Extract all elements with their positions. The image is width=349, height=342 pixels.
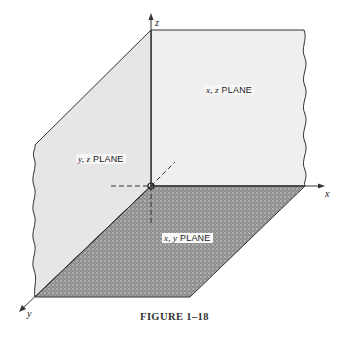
xy-plane-label: x, y PLANE (162, 233, 213, 243)
xz-plane-label: x, z PLANE (204, 85, 254, 95)
coordinate-planes-diagram (0, 0, 349, 342)
x-arrow-icon (318, 184, 325, 189)
x-axis-label: x (325, 188, 329, 199)
yz-plane-label: y, z PLANE (76, 154, 126, 164)
figure-caption: FIGURE 1–18 (0, 311, 349, 322)
z-arrow-icon (149, 13, 154, 20)
z-axis-label: z (155, 17, 159, 28)
